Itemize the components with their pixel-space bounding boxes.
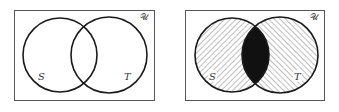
set-s-label: S (38, 71, 45, 82)
universal-set-box (15, 11, 155, 101)
venn-diagram-plain: 𝒰 S T (15, 11, 155, 101)
venn-diagram-shaded: 𝒰 S T (186, 11, 325, 101)
set-s-label: S (209, 71, 216, 82)
venn-diagrams: 𝒰 S T 𝒰 S T (0, 0, 339, 112)
